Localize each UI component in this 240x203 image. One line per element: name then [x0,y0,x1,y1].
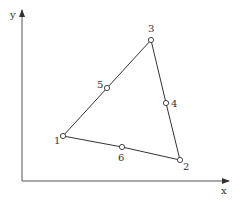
y-axis-label: y [9,9,16,20]
element-nodes: 123456 [54,23,189,172]
node-label: 5 [97,79,103,90]
node-marker-icon [104,85,109,90]
node-marker-icon [163,100,168,105]
node-6: 6 [118,144,125,163]
node-5: 5 [97,79,110,91]
node-marker-icon [148,37,153,42]
node-marker-icon [177,157,182,162]
node-1: 1 [54,133,66,146]
node-marker-icon [60,133,65,138]
node-label: 1 [54,135,60,146]
node-marker-icon [119,144,124,149]
node-label: 2 [183,161,189,172]
node-3: 3 [148,23,154,43]
node-label: 6 [118,152,124,163]
x-axis-label: x [221,185,227,196]
node-2: 2 [177,157,189,172]
node-label: 4 [171,98,177,109]
node-label: 3 [148,23,154,34]
element-edges [63,40,180,160]
triangle-element-diagram: x y 123456 [0,0,240,203]
axes: x y [9,9,229,196]
